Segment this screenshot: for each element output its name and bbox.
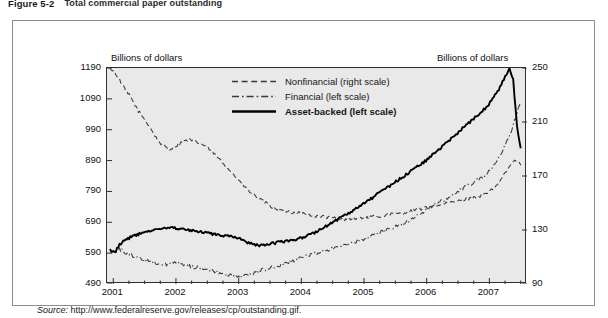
legend-item: Asset-backed (left scale) [231,105,396,118]
x-axis-tick: 2005 [352,287,373,297]
figure-card: Billions of dollars Billions of dollars … [12,20,595,306]
legend-key-solid-icon [231,106,277,117]
left-axis-tick: 690 [85,217,101,227]
right-axis-tick: 210 [532,116,548,126]
left-axis-title: Billions of dollars [111,52,182,63]
x-axis-tick: 2004 [290,287,311,297]
legend-item: Financial (left scale) [231,90,396,103]
source-note: Source: http://www.federalreserve.gov/re… [37,305,301,315]
source-label: Source: [37,305,68,315]
x-axis-tick: 2001 [102,287,123,297]
left-axis-tick: 1190 [81,62,101,72]
left-axis-tick: 490 [85,278,101,288]
legend-label-nonfinancial: Nonfinancial (right scale) [285,76,390,87]
legend-key-dashed-icon [231,76,277,87]
figure-number: Figure 5-2 [8,0,54,9]
x-axis-tick: 2007 [478,287,499,297]
left-axis-tick: 890 [85,155,101,165]
right-axis-tick: 130 [532,224,548,234]
left-axis-tick: 990 [85,124,101,134]
figure-title: Total commercial paper outstanding [64,0,222,8]
figure-caption: Figure 5-2 Total commercial paper outsta… [8,0,222,10]
left-axis-tick: 590 [85,247,101,257]
right-axis-title: Billions of dollars [437,52,508,63]
right-axis-tick: 170 [532,170,548,180]
left-axis-tick: 790 [85,186,101,196]
figure-root: Figure 5-2 Total commercial paper outsta… [0,0,608,318]
legend-key-dashdot-icon [231,91,277,102]
legend-item: Nonfinancial (right scale) [231,75,396,88]
x-axis-tick: 2003 [227,287,248,297]
legend-label-asset-backed: Asset-backed (left scale) [285,106,396,117]
series-line-dashdot [110,102,521,279]
right-axis-tick: 90 [532,278,543,288]
left-axis-tick: 1090 [80,93,101,103]
legend-label-financial: Financial (left scale) [285,91,369,102]
right-axis-tick: 250 [532,62,548,72]
x-axis-tick: 2002 [164,287,185,297]
source-url: http://www.federalreserve.gov/releases/c… [71,305,302,315]
x-axis-tick: 2006 [415,287,436,297]
chart-legend: Nonfinancial (right scale) Financial (le… [231,75,396,118]
